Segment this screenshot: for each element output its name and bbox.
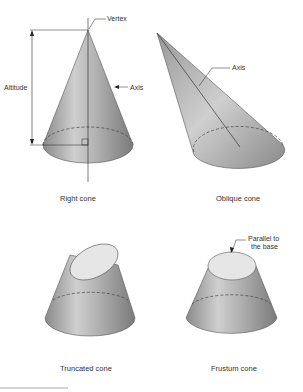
oblique-axis-label: Axis [232, 64, 245, 72]
caption-right-cone: Right cone [60, 194, 96, 203]
altitude-label: Altitude [4, 84, 27, 92]
caption-oblique-cone: Oblique cone [216, 194, 260, 203]
vertex-leader [89, 19, 106, 29]
vertex-label: Vertex [107, 15, 127, 23]
parallel-leader [232, 240, 246, 252]
right-cone-shape [30, 18, 133, 182]
caption-truncated-cone: Truncated cone [60, 364, 112, 373]
axis-label: Axis [130, 84, 143, 92]
top-face [208, 252, 256, 280]
frustum-cone-shape [186, 240, 277, 333]
bottom-divider [0, 387, 68, 389]
truncated-cone-shape [45, 237, 135, 336]
parallel-label-line1: Parallel to [248, 235, 279, 243]
caption-frustum-cone: Frustum cone [211, 364, 257, 373]
parallel-label-line2: the base [251, 243, 278, 251]
oblique-cone-shape [157, 33, 285, 170]
